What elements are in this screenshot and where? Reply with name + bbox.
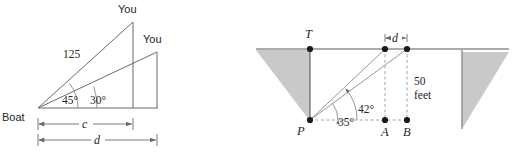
node-dot-A (382, 117, 388, 123)
label-angle-42: 42° (358, 103, 375, 115)
label-angle-30: 30° (90, 94, 107, 106)
dimension-d-left: d (38, 133, 157, 147)
label-angle-35: 35° (338, 116, 355, 128)
right-diagram: T P A B 35° 42° d 50 feet (256, 27, 509, 139)
shaded-right-wall (462, 52, 509, 129)
node-dot-P (307, 117, 313, 123)
dimension-c: c (38, 117, 133, 131)
hypotenuse-125 (38, 22, 133, 108)
figure-canvas: You You 125 45° 30° Boat c d (0, 0, 513, 153)
dimension-d-label: d (94, 133, 101, 147)
label-you-upper: You (118, 3, 137, 15)
node-dot-B (404, 117, 410, 123)
dimension-d-right: d (385, 31, 407, 45)
label-point-T: T (305, 27, 313, 41)
label-length-125: 125 (63, 48, 81, 60)
left-diagram: You You 125 45° 30° Boat c d (2, 3, 162, 147)
dimension-d-right-label: d (392, 31, 399, 45)
shaded-left-wall (256, 50, 310, 121)
node-dot-T (307, 46, 313, 52)
label-height-unit: feet (414, 89, 432, 101)
label-point-P: P (296, 124, 305, 138)
node-dot-B-top (404, 46, 410, 52)
label-angle-45: 45° (62, 94, 79, 106)
label-height-value: 50 (414, 75, 426, 87)
label-point-A: A (380, 125, 389, 139)
label-boat: Boat (2, 111, 25, 123)
dimension-c-label: c (82, 117, 88, 131)
label-you-lower: You (143, 33, 162, 45)
node-dot-A-top (382, 46, 388, 52)
label-point-B: B (403, 125, 411, 139)
figure-root: You You 125 45° 30° Boat c d (0, 0, 513, 153)
